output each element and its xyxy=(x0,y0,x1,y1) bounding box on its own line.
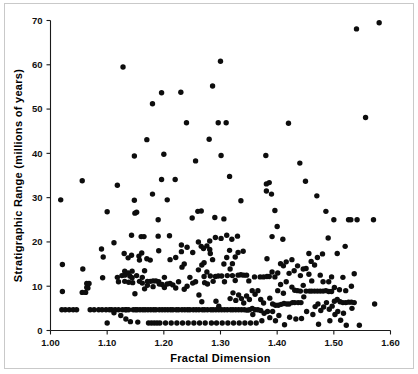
scatter-point xyxy=(144,137,149,142)
scatter-point xyxy=(216,120,221,125)
scatter-point xyxy=(197,320,202,325)
scatter-point xyxy=(376,20,381,25)
scatter-point xyxy=(173,255,178,260)
scatter-point xyxy=(372,301,377,306)
scatter-point xyxy=(165,197,170,202)
scatter-point xyxy=(199,299,204,304)
scatter-point xyxy=(352,271,357,276)
scatter-point xyxy=(230,261,235,266)
scatter-point xyxy=(241,300,246,305)
scatter-point xyxy=(155,233,160,238)
scatter-point xyxy=(60,262,65,267)
scatter-point xyxy=(134,273,139,278)
y-tick-label: 50 xyxy=(32,103,43,114)
scatter-point xyxy=(159,177,164,182)
scatter-point xyxy=(229,237,234,242)
scatter-point xyxy=(189,215,194,220)
scatter-point xyxy=(310,312,315,317)
scatter-point xyxy=(184,120,189,125)
scatter-point xyxy=(231,320,236,325)
scatter-point xyxy=(238,198,243,203)
scatter-point xyxy=(214,320,219,325)
scatter-point xyxy=(224,233,229,238)
scatter-point xyxy=(248,320,253,325)
scatter-point xyxy=(280,237,285,242)
scatter-point xyxy=(210,257,215,262)
scatter-point xyxy=(282,322,287,327)
scatter-point xyxy=(316,322,321,327)
x-tick-label: 1.20 xyxy=(155,337,174,348)
scatter-point xyxy=(269,191,274,196)
scatter-point xyxy=(306,251,311,256)
scatter-point xyxy=(303,266,308,271)
scatter-point xyxy=(281,291,286,296)
scatter-point xyxy=(354,217,359,222)
scatter-point xyxy=(120,64,125,69)
scatter-point xyxy=(123,316,128,321)
scatter-point xyxy=(196,239,201,244)
scatter-point xyxy=(140,275,145,280)
scatter-point xyxy=(86,281,91,286)
scatter-point xyxy=(267,315,272,320)
scatter-point xyxy=(337,287,342,292)
scatter-point xyxy=(263,153,268,158)
scatter-point xyxy=(74,307,79,312)
scatter-point xyxy=(142,268,147,273)
scatter-point xyxy=(267,274,272,279)
scatter-point xyxy=(284,279,289,284)
scatter-point xyxy=(227,296,232,301)
scatter-point xyxy=(180,320,185,325)
scatter-point xyxy=(230,273,235,278)
scatter-point xyxy=(340,275,345,280)
scatter-point xyxy=(349,306,354,311)
scatter-point xyxy=(223,120,228,125)
scatter-point xyxy=(303,179,308,184)
scatter-point xyxy=(295,263,300,268)
scatter-point xyxy=(244,272,249,277)
scatter-point xyxy=(275,270,280,275)
scatter-point xyxy=(363,115,368,120)
scatter-point xyxy=(141,234,146,239)
scatter-point xyxy=(235,250,240,255)
scatter-point xyxy=(326,279,331,284)
scatter-point xyxy=(286,121,291,126)
figure-root: 0102030405060701.001.101.201.301.401.501… xyxy=(0,0,418,374)
scatter-point xyxy=(213,299,218,304)
scatter-point xyxy=(329,274,334,279)
scatter-point xyxy=(269,234,274,239)
scatter-point xyxy=(321,304,326,309)
scatter-point xyxy=(150,284,155,289)
scatter-point xyxy=(250,312,255,317)
scatter-point xyxy=(169,320,174,325)
scatter-point xyxy=(267,295,272,300)
scatter-point xyxy=(161,152,166,157)
scatter-point xyxy=(155,217,160,222)
scatter-point xyxy=(218,59,223,64)
scatter-point xyxy=(225,273,230,278)
scatter-point xyxy=(60,289,65,294)
x-tick-label: 1.40 xyxy=(268,337,287,348)
scatter-point xyxy=(240,249,245,254)
scatter-point xyxy=(156,248,161,253)
scatter-point xyxy=(111,240,116,245)
scatter-point xyxy=(331,217,336,222)
y-tick-label: 0 xyxy=(37,325,42,336)
scatter-point xyxy=(224,255,229,260)
y-tick-label: 60 xyxy=(32,59,43,70)
scatter-point xyxy=(341,311,346,316)
scatter-point xyxy=(273,318,278,323)
scatter-point xyxy=(237,320,242,325)
scatter-point xyxy=(137,257,142,262)
scatter-point xyxy=(252,274,257,279)
scatter-point xyxy=(218,236,223,241)
scatter-point xyxy=(348,217,353,222)
scatter-point xyxy=(129,253,134,258)
scatter-point xyxy=(320,251,325,256)
scatter-point xyxy=(196,267,201,272)
scatter-point xyxy=(100,275,105,280)
scatter-point xyxy=(354,26,359,31)
scatter-point xyxy=(274,224,279,229)
scatter-point xyxy=(174,320,179,325)
scatter-point xyxy=(209,320,214,325)
scatter-point xyxy=(129,233,134,238)
